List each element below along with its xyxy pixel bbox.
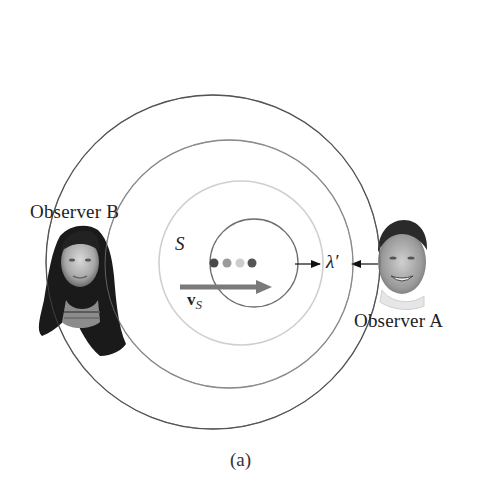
velocity-symbol: v [187, 290, 196, 309]
velocity-label: vS [187, 291, 202, 308]
observer-b-label: Observer B [30, 202, 119, 221]
observer-a-photo [378, 220, 427, 309]
source-dot-1 [210, 259, 219, 268]
source-dot-2 [223, 259, 232, 268]
wavelength-label: λ′ [326, 252, 338, 271]
observer-a-label: Observer A [354, 311, 443, 330]
source-dot-3 [236, 259, 245, 268]
source-positions [210, 259, 257, 268]
diagram-canvas [0, 0, 485, 494]
source-label: S [175, 234, 185, 253]
figure-caption: (a) [230, 450, 251, 469]
observer-b-photo [39, 226, 126, 356]
doppler-diagram: Observer B Observer A S λ′ vS (a) [0, 0, 485, 494]
source-dot-4 [248, 259, 257, 268]
velocity-subscript: S [196, 297, 203, 312]
